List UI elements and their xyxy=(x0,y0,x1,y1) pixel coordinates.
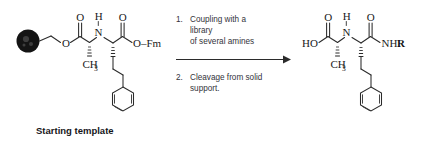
condition-1-number: 1. xyxy=(176,15,183,24)
product-amide-hydrogen-label: H xyxy=(343,10,351,22)
reactant-methyl-stereobond xyxy=(87,47,92,56)
product-carbonyl-oxygen-2-label: O xyxy=(367,11,375,23)
condition-1-line-3: of several amines xyxy=(190,37,254,46)
reactant-caption: Starting template xyxy=(36,125,114,136)
reaction-conditions: 1. Coupling with a library of several am… xyxy=(176,15,291,93)
reactant-carbonyl-oxygen-2-label: O xyxy=(119,11,127,23)
reaction-scheme: O O CH 3 N H O O–Fm xyxy=(0,0,444,144)
condition-2-line-1: Cleavage from solid xyxy=(190,73,263,82)
reactant-fm-ester-label: O–Fm xyxy=(133,37,162,49)
reactant-ester-oxygen-label: O xyxy=(62,37,70,49)
product-methyl-stereobond xyxy=(335,47,340,56)
reactant-structure: O O CH 3 N H O O–Fm xyxy=(17,10,162,136)
reactant-sidechain-stereobond xyxy=(111,48,116,57)
condition-1-line-2: library xyxy=(190,26,213,35)
condition-1-line-1: Coupling with a xyxy=(190,15,246,24)
condition-2-number: 2. xyxy=(176,73,183,82)
reactant-phenyl-ring xyxy=(113,87,134,111)
resin-bead-icon xyxy=(17,30,40,53)
product-amide-r-group-label: R xyxy=(397,37,406,49)
reactant-amide-nitrogen-label: N xyxy=(95,26,103,38)
product-sidechain-stereobond xyxy=(359,48,364,57)
product-structure: HO O CH 3 N H O NH R xyxy=(302,10,406,111)
reaction-arrow xyxy=(176,56,291,64)
product-carbonyl-oxygen-1-label: O xyxy=(324,11,332,23)
product-hydroxyl-label: HO xyxy=(302,37,318,49)
product-phenyl-ring xyxy=(361,87,382,111)
condition-2-line-2: support. xyxy=(190,84,220,93)
product-amide-nitrogen-label: N xyxy=(343,26,351,38)
reactant-methyl-subscript: 3 xyxy=(94,64,98,73)
reactant-carbonyl-oxygen-1-label: O xyxy=(76,11,84,23)
product-amide-terminus-label: NH xyxy=(382,37,398,49)
product-methyl-subscript: 3 xyxy=(342,64,346,73)
reactant-amide-hydrogen-label: H xyxy=(95,10,103,22)
